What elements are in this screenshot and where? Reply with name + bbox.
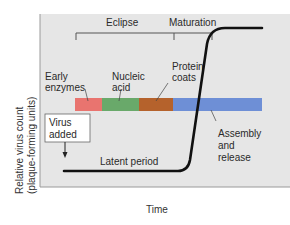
virus-added-label-line2: added <box>49 129 77 140</box>
virus-added-label-line1: Virus <box>49 117 72 128</box>
maturation-label: Maturation <box>169 17 216 28</box>
protein-coats-label-line2: coats <box>172 72 196 83</box>
early-enzymes-label-line2: enzymes <box>45 82 85 93</box>
replication-stage-bar <box>75 98 262 111</box>
eclipse-label: Eclipse <box>106 17 139 28</box>
protein-coats-label-line1: Protein <box>172 61 204 72</box>
early-enzymes-label-line1: Early <box>45 71 68 82</box>
x-axis-label: Time <box>146 204 168 215</box>
assembly-label-line1: Assembly <box>218 128 261 139</box>
latent-period-label: Latent period <box>100 156 158 167</box>
nucleic-acid-label-line2: acid <box>112 82 130 93</box>
assembly-label-line2: and <box>218 140 235 151</box>
y-axis-label-line2: (plaque-forming units) <box>26 97 37 194</box>
y-axis-label-line1: Relative virus count <box>14 107 25 194</box>
bar-segment-early-enzymes <box>75 98 102 111</box>
nucleic-acid-label-line1: Nucleic <box>112 71 145 82</box>
bar-segment-assembly-and-release <box>173 98 262 111</box>
growth-curve-diagram: Eclipse Maturation Early enzymes Nucleic… <box>0 0 290 225</box>
bar-segment-nucleic-acid <box>102 98 139 111</box>
assembly-label-line3: release <box>218 152 251 163</box>
bar-segment-protein-coats <box>139 98 173 111</box>
